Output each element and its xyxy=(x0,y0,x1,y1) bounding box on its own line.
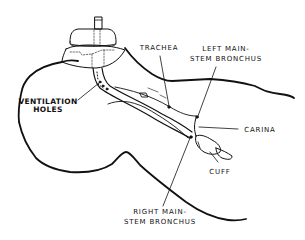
diagram-canvas: VENTILATION HOLES TRACHEA LEFT MAIN- STE… xyxy=(0,0,305,240)
label-ventilation-holes: VENTILATION HOLES xyxy=(16,98,80,114)
airway-illustration xyxy=(0,0,305,240)
leader-left-mainstem xyxy=(198,67,216,116)
label-cuff: CUFF xyxy=(205,168,235,176)
tube-flange xyxy=(62,45,125,68)
label-carina: CARINA xyxy=(240,126,280,134)
leader-carina xyxy=(199,127,238,129)
label-right-mainstem-bronchus: RIGHT MAIN- STEM BRONCHUS xyxy=(120,207,200,227)
tube-inner-wall xyxy=(102,68,192,132)
label-left-mainstem-bronchus: LEFT MAIN- STEM BRONCHUS xyxy=(186,44,266,64)
leader-ventilation xyxy=(78,83,99,100)
tube-connector xyxy=(95,17,102,29)
tube-hub xyxy=(70,29,116,46)
shoulder-outline xyxy=(62,60,78,62)
label-trachea: TRACHEA xyxy=(134,44,184,52)
chest-outline xyxy=(19,62,246,220)
